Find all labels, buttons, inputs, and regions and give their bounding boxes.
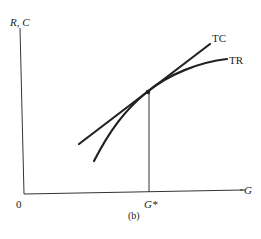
y-axis — [20, 28, 24, 194]
g-star-label: G* — [144, 199, 157, 210]
intersection-point — [146, 90, 151, 95]
tr-label: TR — [229, 55, 243, 66]
x-axis-label: G — [244, 185, 252, 196]
tc-label: TC — [212, 33, 226, 44]
tr-curve — [94, 59, 227, 161]
y-axis-label: R, C — [10, 17, 30, 28]
origin-label: 0 — [16, 199, 22, 210]
x-axis — [24, 190, 243, 194]
figure-caption: (b) — [128, 210, 140, 221]
